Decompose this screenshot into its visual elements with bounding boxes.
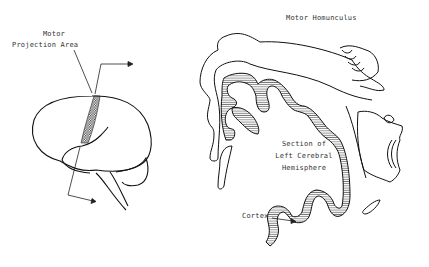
coronal-section xyxy=(200,34,402,214)
motor-label-line2: Projection Area xyxy=(12,41,78,49)
diagram-canvas: Motor Projection Area Motor Homunculus S… xyxy=(0,0,429,267)
section-label-line3: Hemisphere xyxy=(264,164,344,172)
section-label-line2: Left Cerebral xyxy=(264,152,344,160)
cortex-label: Cortex xyxy=(242,212,269,220)
section-label-line1: Section of xyxy=(264,140,344,148)
motor-label-line1: Motor xyxy=(34,30,74,38)
arrows xyxy=(68,50,133,204)
homunculus-title: Motor Homunculus xyxy=(286,14,357,22)
motor-projection-strip xyxy=(81,96,100,143)
